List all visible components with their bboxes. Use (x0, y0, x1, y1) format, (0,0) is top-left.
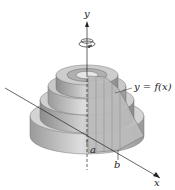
y-axis-label: y (84, 9, 90, 19)
x-axis-label: x (154, 178, 160, 188)
label-b: b (114, 160, 120, 170)
curve-label: y = f(x) (134, 82, 172, 92)
shells-diagram (0, 0, 175, 190)
label-a: a (90, 145, 96, 155)
